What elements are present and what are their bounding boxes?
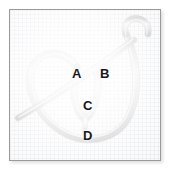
label-b: B [100,67,109,80]
label-d: D [83,129,92,142]
figure-canvas: A B C D [0,0,172,173]
label-a: A [72,67,81,80]
rope-hook-end [125,18,148,35]
label-c: C [83,99,92,112]
figure-frame: A B C D [9,9,161,161]
